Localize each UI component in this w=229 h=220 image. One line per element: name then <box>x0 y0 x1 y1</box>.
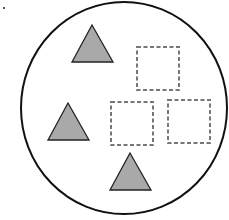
dashed-square-2 <box>111 102 153 145</box>
dashed-square-1 <box>137 47 179 90</box>
dashed-square-3 <box>168 100 210 143</box>
triangle-2 <box>48 103 89 140</box>
corner-dot <box>3 7 5 9</box>
diagram-canvas <box>0 0 229 220</box>
triangle-1 <box>72 25 113 62</box>
triangle-3 <box>110 153 151 190</box>
